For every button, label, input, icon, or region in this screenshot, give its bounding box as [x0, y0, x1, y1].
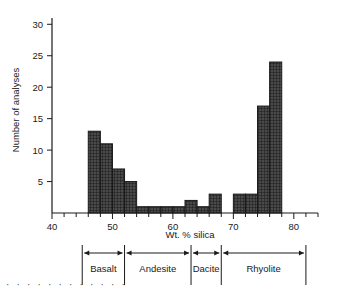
y-tick-label: 5 — [38, 176, 43, 187]
histogram-bar — [197, 207, 209, 213]
silica-histogram-chart: 405060708051015202530 BasaltAndesiteDaci… — [0, 0, 340, 295]
arrow-head-left — [223, 250, 228, 255]
histogram-bar — [185, 200, 197, 213]
category-label: Dacite — [193, 263, 220, 274]
category-label: Andesite — [139, 263, 176, 274]
histogram-bar — [245, 194, 257, 213]
histogram-bar — [112, 169, 124, 213]
histogram-bar — [161, 207, 173, 213]
histogram-bar — [149, 207, 161, 213]
histogram-bar — [209, 194, 221, 213]
y-tick-label: 10 — [32, 145, 43, 156]
arrow-head-left — [84, 250, 89, 255]
histogram-bar — [270, 62, 282, 213]
histogram-bar — [258, 106, 270, 213]
category-label: Rhyolite — [246, 263, 280, 274]
histogram-bar — [173, 207, 185, 213]
x-axis-label: Wt. % silica — [165, 229, 215, 240]
arrow-head-right — [118, 250, 123, 255]
x-tick-label: 80 — [289, 221, 300, 232]
arrow-head-right — [214, 250, 219, 255]
y-tick-label: 20 — [32, 82, 43, 93]
decorative-dots: · · · · · · · · · · · · — [6, 281, 127, 289]
histogram-bar — [137, 207, 149, 213]
x-tick-label: 50 — [107, 221, 118, 232]
histogram-bar — [233, 194, 245, 213]
x-tick-label: 70 — [228, 221, 239, 232]
arrow-head-right — [299, 250, 304, 255]
category-label: Basalt — [90, 263, 117, 274]
bars-group — [88, 62, 281, 213]
histogram-figure: 405060708051015202530 BasaltAndesiteDaci… — [0, 0, 340, 295]
histogram-bar — [88, 131, 100, 213]
y-tick-label: 30 — [32, 19, 43, 30]
y-tick-label: 25 — [32, 50, 43, 61]
arrow-head-left — [193, 250, 198, 255]
arrow-head-left — [127, 250, 132, 255]
histogram-bar — [125, 182, 137, 213]
y-axis-label: Number of analyses — [10, 68, 21, 153]
histogram-bar — [100, 144, 112, 213]
x-tick-label: 40 — [47, 221, 58, 232]
arrow-head-right — [184, 250, 189, 255]
y-tick-label: 15 — [32, 113, 43, 124]
